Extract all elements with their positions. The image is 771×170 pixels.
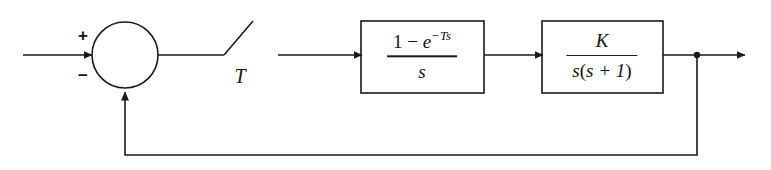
- zoh-numerator-prefix: 1 −: [393, 31, 423, 52]
- plant-numerator: K: [566, 30, 637, 54]
- diagram-canvas: [0, 0, 771, 170]
- zoh-numerator-base: e: [423, 31, 431, 52]
- summing-junction-plus-sign: +: [78, 26, 88, 46]
- zoh-numerator-exponent: −Ts: [431, 28, 451, 43]
- zero-order-hold-expression: 1 − e−Ts s: [387, 29, 457, 82]
- sampler-switch-arm: [224, 21, 253, 55]
- plant-denominator-group: s + 1: [586, 60, 625, 81]
- zoh-numerator: 1 − e−Ts: [387, 29, 457, 54]
- zoh-denominator: s: [387, 59, 457, 83]
- zoh-fraction-bar: [387, 55, 457, 56]
- plant-denominator: s(s + 1): [566, 58, 637, 82]
- plant-fraction-bar: [566, 55, 637, 56]
- sampler-period-label: T: [234, 65, 245, 88]
- block-diagram: + − T 1 − e−Ts s K s(s + 1): [0, 0, 771, 170]
- summing-junction-minus-sign: −: [78, 66, 88, 86]
- plant-expression: K s(s + 1): [566, 30, 637, 82]
- summing-junction-circle: [92, 22, 158, 88]
- plant-denominator-close-paren: ): [625, 60, 631, 81]
